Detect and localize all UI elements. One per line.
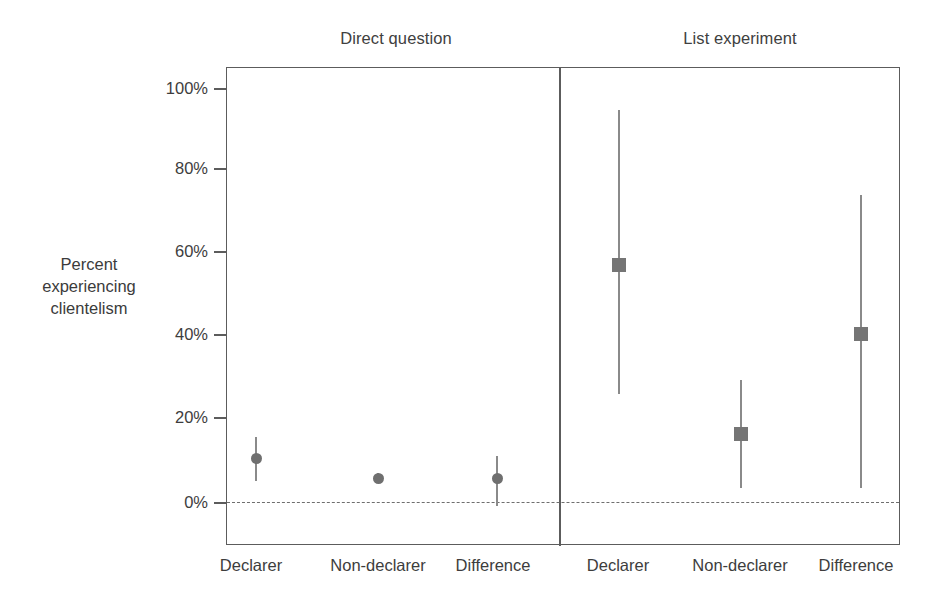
data-point-list-non-declarer (734, 427, 748, 441)
y-tick-label-60: 60% (130, 242, 208, 261)
x-tick-label-direct-declarer: Declarer (195, 556, 307, 575)
x-tick-label-list-declarer: Declarer (562, 556, 674, 575)
x-tick-label-direct-non-declarer: Non-declarer (313, 556, 443, 575)
y-tick-label-0: 0% (130, 493, 208, 512)
panel-title-list-experiment: List experiment (580, 29, 900, 48)
y-tick-label-80: 80% (130, 159, 208, 178)
x-tick-label-direct-difference: Difference (437, 556, 549, 575)
data-point-list-declarer (612, 258, 626, 272)
data-point-direct-non-declarer (373, 473, 384, 484)
data-point-direct-declarer (251, 453, 262, 464)
y-tick-label-100: 100% (130, 79, 208, 98)
data-point-list-difference (854, 327, 868, 341)
chart-figure: Direct question List experiment Percent … (0, 0, 949, 604)
y-tick-label-40: 40% (130, 325, 208, 344)
data-point-direct-difference (492, 473, 503, 484)
y-axis-tick-labels: 100% 80% 60% 40% 20% 0% (120, 0, 208, 604)
zero-reference-line (227, 502, 899, 503)
x-tick-label-list-difference: Difference (800, 556, 912, 575)
x-tick-label-list-non-declarer: Non-declarer (675, 556, 805, 575)
panel-title-direct-question: Direct question (236, 29, 556, 48)
y-tick-label-20: 20% (130, 408, 208, 427)
error-bar-list-declarer (618, 110, 620, 394)
panel-divider (559, 67, 561, 546)
error-bar-list-difference (860, 195, 862, 488)
plot-frame (226, 67, 900, 545)
